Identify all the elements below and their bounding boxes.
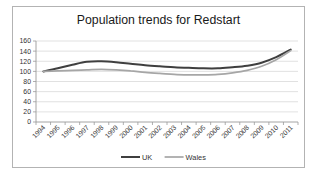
y-tick-label: 0 <box>27 118 31 125</box>
legend-label: Wales <box>186 153 207 162</box>
y-tick-label: 120 <box>20 58 32 65</box>
y-tick-label: 160 <box>20 37 32 44</box>
population-line-chart: Population trends for Redstart 020406080… <box>0 0 321 182</box>
chart-title: Population trends for Redstart <box>77 13 241 27</box>
y-tick-label: 20 <box>23 108 31 115</box>
legend-label: UK <box>142 153 152 162</box>
y-tick-label: 40 <box>23 98 31 105</box>
y-tick-label: 60 <box>23 88 31 95</box>
y-tick-label: 140 <box>20 48 32 55</box>
chart-border <box>13 7 305 168</box>
chart-canvas: Population trends for Redstart 020406080… <box>0 0 321 182</box>
y-tick-label: 80 <box>23 78 31 85</box>
y-tick-label: 100 <box>20 68 32 75</box>
